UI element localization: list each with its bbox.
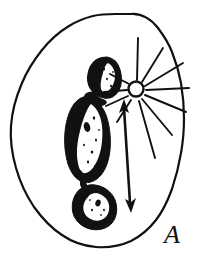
panel-label: A — [162, 220, 180, 249]
sun-core-circle — [129, 82, 144, 97]
figure-drawing: A — [0, 0, 213, 267]
figure-panel: A — [0, 0, 213, 267]
